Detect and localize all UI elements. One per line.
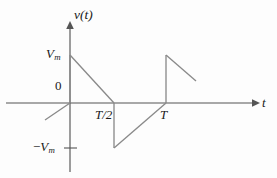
x-axis-group bbox=[6, 99, 260, 107]
waveform-trace-group bbox=[45, 55, 196, 148]
period-tick-label: T bbox=[160, 108, 167, 121]
amplitude-negative-label: −Vm bbox=[33, 140, 55, 155]
waveform-figure: v(t) t Vm −Vm 0 T/2 T bbox=[0, 0, 277, 178]
waveform-segment-rise-second bbox=[114, 103, 166, 148]
origin-label: 0 bbox=[55, 79, 62, 92]
x-axis-label: t bbox=[262, 96, 266, 109]
y-axis-label: v(t) bbox=[74, 8, 93, 22]
waveform-segment-fall-third bbox=[166, 55, 196, 81]
amplitude-positive-label: Vm bbox=[46, 47, 61, 62]
y-axis-arrowhead-icon bbox=[66, 21, 74, 29]
half-period-tick-label: T/2 bbox=[95, 108, 112, 121]
waveform-segment-fall-first bbox=[70, 55, 114, 103]
x-axis-arrowhead-icon bbox=[252, 99, 260, 107]
waveform-segment-pre-origin bbox=[45, 103, 70, 120]
